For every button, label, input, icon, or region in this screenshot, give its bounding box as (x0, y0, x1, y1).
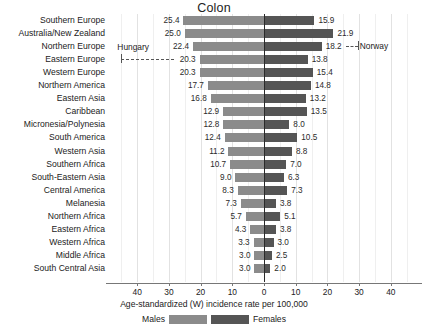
bar-value-female: 2.5 (276, 249, 287, 262)
plot-area: 25.415.925.021.922.418.220.313.820.315.4… (108, 14, 420, 282)
x-tick-mark (264, 283, 265, 286)
x-tick-label: 10 (284, 287, 308, 297)
page-title: Colon (0, 1, 428, 15)
bar-male (246, 212, 264, 221)
bar-value-female: 6.3 (288, 171, 299, 184)
bar-female (264, 68, 313, 77)
bar-value-female: 21.9 (337, 27, 353, 40)
legend-label-females: Females (253, 314, 286, 324)
bar-male (183, 16, 264, 25)
bar-female (264, 29, 333, 38)
x-axis-title: Age-standardized (W) incidence rate per … (0, 299, 428, 309)
x-tick-mark (327, 283, 328, 286)
bar-female (264, 16, 314, 25)
bar-male (193, 42, 264, 51)
bar-male (223, 107, 264, 116)
x-tick-mark (296, 283, 297, 286)
bar-male (225, 133, 264, 142)
bar-value-male: 11.2 (176, 145, 224, 158)
x-tick-mark (391, 283, 392, 286)
category-label: South Central Asia (0, 262, 105, 275)
bar-value-male: 12.8 (171, 118, 219, 131)
bar-male (254, 251, 264, 260)
bar-value-female: 15.4 (317, 66, 333, 79)
bar-value-male: 3.3 (202, 236, 250, 249)
bar-female (264, 173, 284, 182)
bar-value-female: 10.5 (301, 131, 317, 144)
bar-value-female: 3.8 (280, 197, 291, 210)
bar-female (264, 147, 292, 156)
category-label: Australia/New Zealand (0, 27, 105, 40)
bar-female (264, 160, 286, 169)
bar-male (208, 81, 264, 90)
category-label: Northern America (0, 79, 105, 92)
bar-female (264, 133, 297, 142)
bar-value-male: 4.3 (198, 223, 246, 236)
x-tick-label: 30 (347, 287, 371, 297)
bar-male (200, 68, 264, 77)
bar-value-male: 17.7 (156, 79, 204, 92)
category-label: Southern Europe (0, 14, 105, 27)
bar-male (185, 29, 264, 38)
bar-value-female: 8.0 (293, 118, 304, 131)
bar-female (264, 42, 322, 51)
bar-value-female: 18.2 (326, 40, 342, 53)
x-tick-label: 10 (220, 287, 244, 297)
category-label: Melanesia (0, 197, 105, 210)
annotation-leader-norway (346, 46, 358, 47)
bar-male (250, 225, 264, 234)
annotation-label-norway: Norway (360, 41, 388, 51)
x-tick-mark (359, 283, 360, 286)
x-tick-label: 20 (189, 287, 213, 297)
x-tick-mark (201, 283, 202, 286)
bar-female (264, 199, 276, 208)
bar-male (211, 94, 264, 103)
annotation-label-hungary: Hungary (117, 42, 149, 52)
bar-value-male: 3.0 (202, 262, 250, 275)
bar-value-male: 12.4 (173, 131, 221, 144)
annotation-tick-norway (358, 41, 359, 50)
bar-value-male: 10.7 (178, 158, 226, 171)
bar-female (264, 107, 307, 116)
category-label: Caribbean (0, 105, 105, 118)
x-tick-mark (232, 283, 233, 286)
bar-value-female: 3.0 (278, 236, 289, 249)
category-label: Southern Africa (0, 158, 105, 171)
zero-axis-line (264, 14, 265, 282)
legend-label-males: Males (142, 314, 165, 324)
bar-female (264, 94, 306, 103)
category-label: Northern Europe (0, 40, 105, 53)
bar-male (238, 186, 264, 195)
legend: Males Females (0, 314, 428, 324)
bar-female (264, 55, 308, 64)
category-label: Micronesia/Polynesia (0, 118, 105, 131)
bar-male (200, 55, 264, 64)
bar-male (241, 199, 264, 208)
bar-female (264, 186, 287, 195)
bar-value-female: 3.8 (280, 223, 291, 236)
bar-value-male: 9.0 (183, 171, 231, 184)
category-label: Middle Africa (0, 249, 105, 262)
category-label: Eastern Africa (0, 223, 105, 236)
x-tick-label: 0 (252, 287, 276, 297)
bar-value-female: 13.5 (311, 105, 327, 118)
bar-female (264, 225, 276, 234)
bar-value-male: 5.7 (194, 210, 242, 223)
bar-value-male: 3.0 (202, 249, 250, 262)
bar-value-male: 16.8 (159, 92, 207, 105)
bar-value-male: 7.3 (189, 197, 237, 210)
bar-value-female: 14.8 (315, 79, 331, 92)
bar-value-male: 20.3 (148, 66, 196, 79)
bar-value-male: 25.4 (131, 14, 179, 27)
annotation-leader-hungary (121, 59, 173, 60)
bar-value-female: 13.2 (310, 92, 326, 105)
bar-value-female: 7.3 (291, 184, 302, 197)
x-tick-label: 20 (315, 287, 339, 297)
bar-male (235, 173, 264, 182)
x-tick-mark (137, 283, 138, 286)
bar-male (254, 264, 264, 273)
bar-male (223, 120, 264, 129)
bar-male (228, 147, 264, 156)
x-tick-mark (169, 283, 170, 286)
category-label: South-Eastern Asia (0, 171, 105, 184)
